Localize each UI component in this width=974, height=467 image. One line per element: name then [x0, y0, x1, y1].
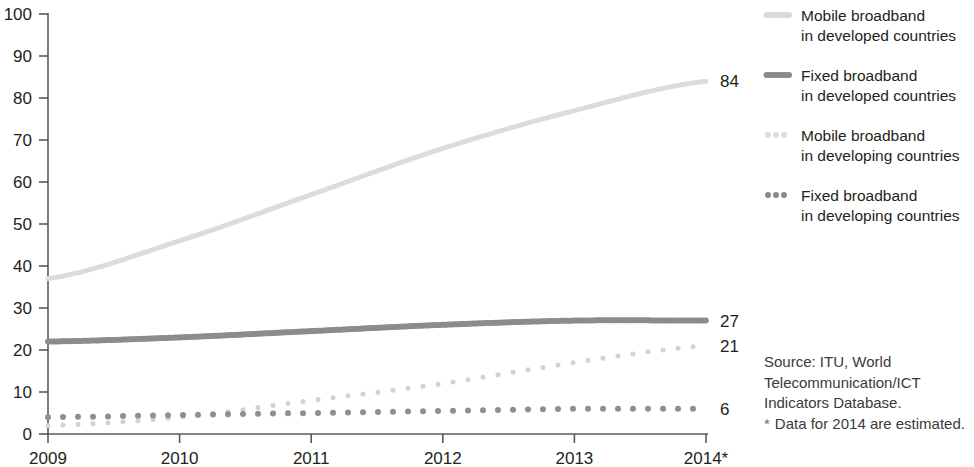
data-point — [210, 412, 216, 418]
data-point — [465, 407, 471, 413]
data-point — [675, 406, 681, 412]
data-point — [255, 411, 261, 417]
x-tick-label: 2012 — [424, 449, 462, 467]
legend-label-line-2: in developed countries — [801, 26, 956, 46]
data-point — [45, 414, 51, 420]
data-point — [525, 406, 531, 412]
data-point — [405, 408, 411, 414]
data-point — [615, 406, 621, 412]
data-point — [571, 360, 576, 365]
data-point — [556, 363, 561, 368]
data-point — [660, 406, 666, 412]
data-point — [570, 406, 576, 412]
data-point — [75, 414, 81, 420]
legend-label: Fixed broadbandin developing countries — [801, 186, 960, 225]
data-point — [165, 412, 171, 418]
data-point — [121, 419, 126, 424]
data-point — [616, 354, 621, 359]
data-point — [300, 410, 306, 416]
data-point — [496, 372, 501, 377]
plot-area: 8427216 1009080706050403020100 200920102… — [0, 0, 760, 467]
data-point — [645, 406, 651, 412]
data-point — [315, 410, 321, 416]
data-point — [466, 377, 471, 382]
data-point — [331, 395, 336, 400]
y-tick-label: 20 — [13, 341, 32, 360]
y-tick-label: 40 — [13, 257, 32, 276]
data-point — [316, 397, 321, 402]
legend-label-line-2: in developing countries — [801, 146, 960, 166]
y-tick-label: 50 — [13, 215, 32, 234]
data-point — [511, 370, 516, 375]
data-point — [271, 403, 276, 408]
legend-label: Fixed broadbandin developed countries — [801, 66, 956, 105]
x-tick-label: 2009 — [29, 449, 67, 467]
source-line-1: Source: ITU, World — [764, 352, 974, 373]
data-point — [436, 382, 441, 387]
light-solid-line-marker — [762, 8, 792, 26]
light-dotted-line-marker — [762, 128, 792, 146]
data-point — [330, 410, 336, 416]
legend-item: Fixed broadbandin developed countries — [762, 66, 974, 105]
data-point — [690, 406, 696, 412]
data-point — [120, 413, 126, 419]
data-point — [586, 358, 591, 363]
y-tick-label: 0 — [23, 425, 32, 444]
data-series — [46, 344, 696, 428]
source-note: Source: ITU, World Telecommunication/ICT… — [764, 352, 974, 434]
data-point — [301, 399, 306, 404]
data-point — [703, 79, 708, 84]
data-point — [661, 347, 666, 352]
broadband-penetration-chart: 8427216 1009080706050403020100 200920102… — [0, 0, 974, 467]
dark-dotted-line-marker — [762, 188, 792, 206]
legend-item: Mobile broadbandin developing countries — [762, 126, 974, 165]
data-point — [600, 406, 606, 412]
chart-legend: Mobile broadbandin developed countriesFi… — [762, 6, 974, 246]
end-value-label: 27 — [720, 312, 739, 331]
data-point — [150, 413, 156, 419]
x-tick-label: 2013 — [555, 449, 593, 467]
source-footnote: * Data for 2014 are estimated. — [764, 414, 974, 435]
legend-label-line-1: Fixed broadband — [801, 66, 956, 86]
y-tick-label: 80 — [13, 89, 32, 108]
end-value-label: 6 — [720, 400, 729, 419]
data-series — [46, 79, 709, 281]
data-point — [601, 356, 606, 361]
data-point — [60, 414, 66, 420]
x-tick-label: 2010 — [161, 449, 199, 467]
dark-solid-line-marker — [762, 68, 792, 86]
data-point — [390, 409, 396, 415]
data-point — [46, 423, 51, 428]
data-series — [45, 317, 709, 344]
data-point — [360, 409, 366, 415]
data-point — [630, 406, 636, 412]
data-point — [375, 409, 381, 415]
data-point — [450, 408, 456, 414]
data-point — [225, 411, 231, 417]
data-point — [676, 346, 681, 351]
legend-label: Mobile broadbandin developing countries — [801, 126, 960, 165]
end-value-label: 21 — [720, 337, 739, 356]
data-point — [286, 401, 291, 406]
x-tick-label: 2014* — [684, 449, 729, 467]
data-point — [345, 409, 351, 415]
data-point — [195, 412, 201, 418]
data-point — [136, 418, 141, 423]
data-point — [361, 391, 366, 396]
source-line-2: Telecommunication/ICT — [764, 373, 974, 394]
end-value-label: 84 — [720, 72, 739, 91]
data-point — [135, 413, 141, 419]
x-axis-tick-labels: 200920102011201220132014* — [29, 449, 729, 467]
legend-item: Fixed broadbandin developing countries — [762, 186, 974, 225]
data-point — [270, 411, 276, 417]
y-tick-label: 60 — [13, 173, 32, 192]
data-point — [646, 349, 651, 354]
data-point — [540, 406, 546, 412]
legend-label-line-1: Fixed broadband — [801, 186, 960, 206]
asterisk-mark: * — [764, 414, 770, 435]
data-point — [391, 388, 396, 393]
legend-item: Mobile broadbandin developed countries — [762, 6, 974, 45]
data-series-layer — [45, 79, 709, 428]
data-point — [105, 413, 111, 419]
x-axis-ticks — [48, 434, 706, 443]
